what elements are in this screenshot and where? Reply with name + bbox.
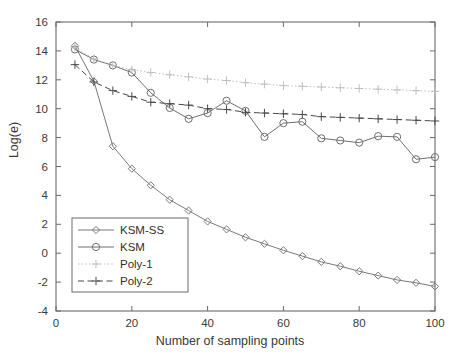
data-point-marker (222, 105, 230, 113)
data-point-marker (260, 109, 268, 117)
y-tick-label: 0 (42, 247, 48, 259)
data-point-marker (241, 78, 249, 86)
data-point-marker (298, 82, 306, 90)
legend-label: Poly-2 (120, 275, 153, 287)
data-point-marker (431, 117, 439, 125)
x-axis-label: Number of sampling points (0, 334, 460, 348)
legend-label: KSM-SS (120, 224, 164, 236)
series-line (75, 49, 435, 159)
data-point-marker (279, 110, 287, 118)
data-point-marker (184, 73, 192, 81)
y-tick-label: 14 (35, 45, 48, 57)
data-point-marker (431, 87, 439, 95)
y-tick-label: -4 (38, 305, 49, 317)
series-poly-1 (71, 43, 439, 95)
data-point-marker (109, 61, 117, 69)
data-point-marker (412, 86, 420, 94)
data-point-marker (71, 43, 79, 51)
data-point-marker (147, 68, 155, 76)
y-tick-label: 16 (35, 16, 48, 28)
data-point-marker (109, 86, 117, 94)
data-point-marker (128, 92, 136, 100)
data-point-marker (317, 83, 325, 91)
data-point-marker (203, 75, 211, 83)
y-tick-label: 4 (42, 189, 49, 201)
data-point-marker (298, 110, 306, 118)
data-point-marker (260, 80, 268, 88)
chart-legend: KSM-SSKSMPoly-1Poly-2 (72, 218, 188, 292)
data-point-marker (412, 116, 420, 124)
legend-label: Poly-1 (120, 258, 153, 270)
data-point-marker (393, 115, 401, 123)
data-point-marker (147, 98, 155, 106)
data-point-marker (128, 65, 136, 73)
data-point-marker (317, 112, 325, 120)
y-tick-label: 2 (42, 218, 48, 230)
x-tick-label: 0 (53, 317, 59, 329)
data-point-marker (393, 86, 401, 94)
y-tick-label: -2 (38, 276, 48, 288)
y-tick-label: 8 (42, 132, 48, 144)
x-tick-label: 40 (201, 317, 214, 329)
y-axis-label: Log(e) (7, 105, 21, 175)
data-point-marker (355, 84, 363, 92)
data-point-marker (374, 85, 382, 93)
y-tick-label: 12 (35, 74, 48, 86)
x-tick-label: 80 (353, 317, 366, 329)
series-ksm (71, 46, 438, 163)
y-tick-label: 6 (42, 161, 48, 173)
series-line (75, 65, 435, 121)
x-tick-label: 100 (425, 317, 444, 329)
data-point-marker (336, 113, 344, 121)
x-tick-label: 60 (277, 317, 290, 329)
data-point-marker (374, 115, 382, 123)
chart-figure: -4-20246810121416020406080100 KSM-SSKSMP… (0, 0, 460, 363)
data-point-marker (279, 81, 287, 89)
data-point-marker (184, 101, 192, 109)
legend-label: KSM (120, 241, 145, 253)
data-point-marker (222, 76, 230, 84)
x-tick-label: 20 (125, 317, 138, 329)
y-tick-label: 10 (35, 103, 48, 115)
data-point-marker (166, 71, 174, 79)
line-chart-plot: -4-20246810121416020406080100 KSM-SSKSMP… (0, 0, 460, 363)
data-point-marker (355, 114, 363, 122)
data-point-marker (336, 84, 344, 92)
